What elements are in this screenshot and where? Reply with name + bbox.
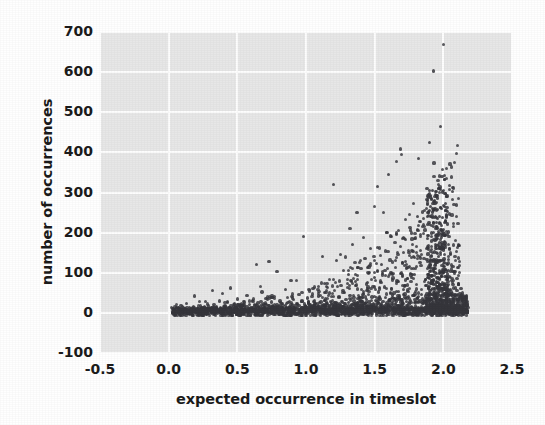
data-point bbox=[224, 305, 227, 308]
data-point bbox=[403, 312, 406, 315]
data-point bbox=[247, 313, 250, 316]
y-axis-label: number of occurrences bbox=[34, 31, 60, 353]
data-point bbox=[267, 260, 270, 263]
data-point bbox=[375, 313, 378, 316]
data-point bbox=[423, 280, 426, 283]
x-tick-label: 0.5 bbox=[207, 361, 267, 377]
data-point bbox=[372, 255, 375, 258]
data-point bbox=[465, 296, 468, 299]
data-point bbox=[358, 296, 361, 299]
data-point bbox=[241, 308, 244, 311]
data-point bbox=[458, 260, 461, 263]
data-point bbox=[358, 261, 361, 264]
data-point bbox=[222, 314, 225, 317]
data-point bbox=[453, 303, 456, 306]
data-point bbox=[414, 311, 417, 314]
data-point bbox=[398, 296, 401, 299]
data-point bbox=[321, 255, 324, 258]
data-point bbox=[367, 272, 370, 275]
data-point bbox=[300, 291, 303, 294]
data-point bbox=[428, 260, 431, 263]
data-point bbox=[440, 228, 443, 231]
data-point bbox=[231, 313, 234, 316]
data-point bbox=[198, 300, 201, 303]
data-point bbox=[388, 258, 391, 261]
data-point bbox=[291, 292, 294, 295]
data-point bbox=[392, 272, 395, 275]
data-point bbox=[357, 304, 360, 307]
data-point bbox=[452, 279, 455, 282]
data-point bbox=[434, 190, 437, 193]
data-point bbox=[341, 291, 344, 294]
data-point bbox=[355, 211, 358, 214]
data-point bbox=[307, 300, 310, 303]
data-point bbox=[415, 265, 418, 268]
data-point bbox=[286, 296, 289, 299]
data-point bbox=[337, 295, 340, 298]
data-point bbox=[448, 247, 451, 250]
data-point bbox=[356, 278, 359, 281]
data-point bbox=[436, 276, 439, 279]
data-point bbox=[422, 217, 425, 220]
data-point bbox=[229, 307, 232, 310]
data-point bbox=[451, 190, 454, 193]
data-point bbox=[172, 309, 175, 312]
data-point bbox=[449, 276, 452, 279]
data-point bbox=[457, 266, 460, 269]
data-point bbox=[417, 291, 420, 294]
data-point bbox=[455, 152, 458, 155]
data-point bbox=[388, 298, 391, 301]
data-point bbox=[445, 167, 448, 170]
data-point bbox=[357, 314, 360, 317]
data-point bbox=[432, 161, 435, 164]
data-point bbox=[425, 309, 428, 312]
data-point bbox=[291, 296, 294, 299]
data-point bbox=[377, 290, 380, 293]
data-point bbox=[392, 291, 395, 294]
data-point bbox=[416, 215, 419, 218]
data-point bbox=[366, 287, 369, 290]
data-point bbox=[411, 243, 414, 246]
data-point bbox=[384, 307, 387, 310]
data-point bbox=[335, 259, 338, 262]
data-point bbox=[416, 257, 419, 260]
data-point bbox=[435, 309, 438, 312]
data-point bbox=[408, 300, 411, 303]
data-point bbox=[332, 183, 335, 186]
data-point bbox=[219, 311, 222, 314]
data-point bbox=[317, 290, 320, 293]
gridline-vertical bbox=[511, 32, 512, 353]
data-point bbox=[374, 279, 377, 282]
data-point bbox=[370, 312, 373, 315]
data-point bbox=[287, 306, 290, 309]
data-point bbox=[438, 185, 441, 188]
data-point bbox=[206, 312, 209, 315]
data-point bbox=[275, 270, 278, 273]
data-point bbox=[432, 175, 435, 178]
data-point bbox=[379, 254, 382, 257]
data-point bbox=[416, 308, 419, 311]
data-point bbox=[324, 312, 327, 315]
data-point bbox=[332, 278, 335, 281]
data-point bbox=[310, 307, 313, 310]
data-point bbox=[185, 302, 188, 305]
data-point bbox=[455, 277, 458, 280]
data-point bbox=[395, 160, 398, 163]
data-point bbox=[268, 306, 271, 309]
data-point bbox=[426, 223, 429, 226]
data-point bbox=[450, 213, 453, 216]
data-point bbox=[387, 313, 390, 316]
data-point bbox=[408, 213, 411, 216]
data-point bbox=[460, 307, 463, 310]
data-point bbox=[395, 256, 398, 259]
data-point bbox=[452, 203, 455, 206]
data-point bbox=[443, 178, 446, 181]
data-point bbox=[438, 174, 441, 177]
data-point bbox=[457, 274, 460, 277]
data-point bbox=[421, 302, 424, 305]
data-point bbox=[399, 147, 402, 150]
data-point bbox=[434, 227, 437, 230]
data-point bbox=[426, 211, 429, 214]
x-tick-label: 1.5 bbox=[345, 361, 405, 377]
data-point bbox=[367, 265, 370, 268]
